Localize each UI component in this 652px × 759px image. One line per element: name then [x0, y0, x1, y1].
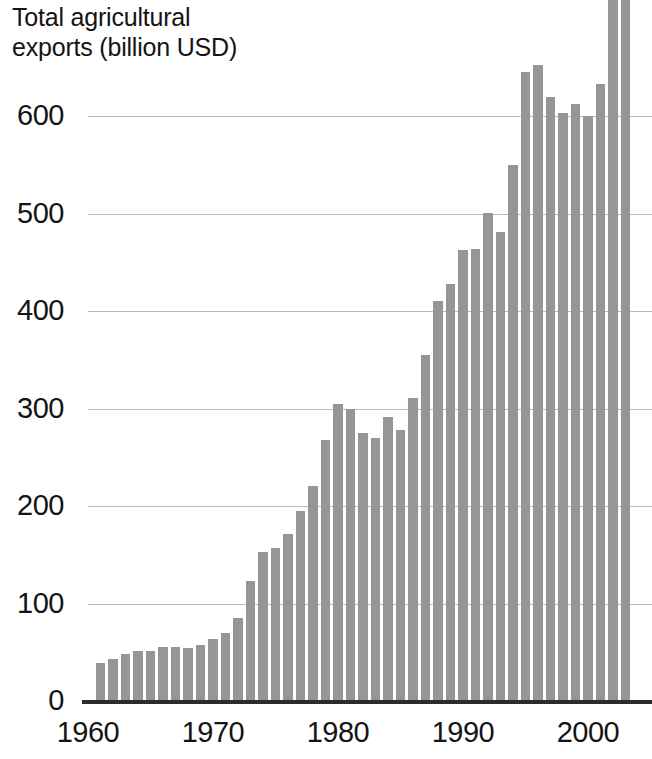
bar — [496, 232, 506, 701]
bar — [271, 548, 281, 701]
bar — [246, 581, 256, 701]
bar — [383, 417, 393, 701]
bar — [321, 440, 331, 701]
bar — [296, 511, 306, 701]
bar — [521, 72, 531, 701]
bar — [196, 645, 206, 702]
bar — [608, 0, 618, 701]
bar — [333, 404, 343, 701]
bar — [583, 116, 593, 701]
bar — [208, 639, 218, 701]
plot-area: 6005004003002001000 19601970198019902000 — [0, 0, 652, 759]
bar — [108, 659, 118, 701]
bar — [358, 433, 368, 701]
x-tick-label-1970: 1970 — [153, 716, 273, 748]
bar — [508, 165, 518, 701]
bar — [158, 647, 168, 701]
bar — [146, 651, 156, 701]
bar — [471, 249, 481, 701]
bar — [446, 284, 456, 701]
bar — [433, 301, 443, 701]
bar — [458, 250, 468, 701]
bar-chart: Total agricultural exports (billion USD)… — [0, 0, 652, 759]
bar — [283, 534, 293, 701]
bar — [408, 398, 418, 701]
bar — [121, 654, 131, 701]
x-tick-label-1980: 1980 — [278, 716, 398, 748]
bar-series — [0, 0, 652, 759]
bar — [346, 409, 356, 702]
bar — [258, 552, 268, 701]
bar — [371, 438, 381, 701]
x-tick-label-2000: 2000 — [528, 716, 648, 748]
bar — [621, 0, 631, 701]
bar — [308, 486, 318, 702]
bar — [571, 104, 581, 701]
bar — [183, 648, 193, 701]
bar — [533, 65, 543, 701]
x-tick-label-1990: 1990 — [403, 716, 523, 748]
bar — [483, 213, 493, 702]
bar — [133, 651, 143, 701]
bar — [558, 113, 568, 701]
bar — [233, 618, 243, 701]
x-tick-label-1960: 1960 — [28, 716, 148, 748]
bar — [421, 355, 431, 701]
bar — [221, 633, 231, 701]
bar — [171, 647, 181, 701]
bar — [546, 97, 556, 702]
bar — [96, 663, 106, 701]
x-axis-line — [82, 700, 652, 704]
bar — [396, 430, 406, 701]
bar — [596, 84, 606, 701]
